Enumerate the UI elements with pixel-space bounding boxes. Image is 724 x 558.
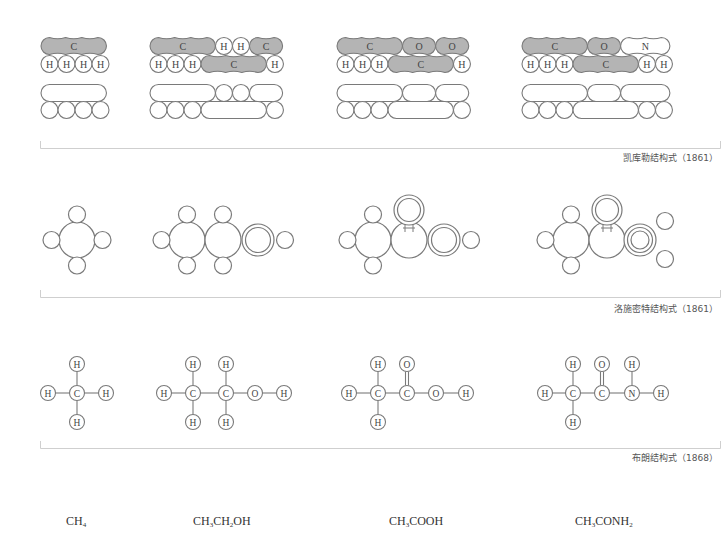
kekule-ethanol-outline <box>150 85 283 119</box>
hydrogen-atom <box>58 102 75 119</box>
carbon-atom <box>355 222 391 258</box>
atom-outline <box>337 85 402 102</box>
hydrogen-atom <box>43 232 60 249</box>
atom-label: C <box>179 41 186 52</box>
atom-outline <box>388 102 453 119</box>
atom-label: H <box>570 418 577 428</box>
atom-label: C <box>570 389 576 399</box>
hydrogen-atom <box>266 102 283 119</box>
hydrogen-atom <box>277 232 294 249</box>
atom-label: H <box>63 59 70 70</box>
hydrogen-atom <box>232 85 249 102</box>
kekule-methane-labeled: CHHHH <box>41 38 109 73</box>
atom-label: H <box>359 59 366 70</box>
carbon-atom <box>169 222 205 258</box>
hydrogen-atom <box>365 257 382 274</box>
atom-label: H <box>189 59 196 70</box>
loschmidt-ethanol <box>153 206 294 274</box>
atom-C: C <box>337 38 402 55</box>
caption-kekule: 凯库勒结构式（1861） <box>623 151 718 164</box>
atom-label: H <box>542 389 549 399</box>
brown-ethanol: HHHHHCCOH <box>157 357 292 430</box>
atom-label: H <box>660 59 667 70</box>
atom-label: C <box>230 59 237 70</box>
section-brackets <box>41 141 721 449</box>
structural-formulas-diagram: CHHHHCHHCHHHCHCOOHHHCHCONHHHCHH HHHCHHHH… <box>0 0 724 558</box>
carbon-atom <box>589 222 625 258</box>
atom-label: H <box>80 59 87 70</box>
nitrogen-atom-inner <box>631 231 649 249</box>
hydrogen-atom <box>92 102 109 119</box>
carbon-atom <box>205 222 241 258</box>
formula-acetic-acid: CH3COOH <box>389 514 443 529</box>
atom-label: H <box>223 360 230 370</box>
hydrogen-atom <box>69 257 86 274</box>
atom-C: C <box>388 56 453 73</box>
oxygen-atom-double-inner <box>596 199 619 222</box>
hydrogen-atom <box>75 102 92 119</box>
atom-label: H <box>271 59 278 70</box>
formula-text: OH <box>233 514 250 528</box>
hydrogen-atom <box>215 257 232 274</box>
atom-label: H <box>376 59 383 70</box>
hydrogen-atom <box>184 102 201 119</box>
loschmidt-section <box>43 195 674 274</box>
hydrogen-atom <box>522 102 539 119</box>
brown-methane: HHHCH <box>41 357 114 430</box>
hydrogen-atom <box>563 257 580 274</box>
atom-label: C <box>70 41 77 52</box>
loschmidt-methane <box>43 206 111 274</box>
atom-label: N <box>642 41 649 52</box>
atom-C: C <box>249 38 282 55</box>
hydrogen-atom <box>556 102 573 119</box>
hydrogen-atom <box>69 206 86 223</box>
kekule-methane-outline <box>41 85 109 119</box>
atom-outline <box>402 85 435 102</box>
atom-label: O <box>415 41 422 52</box>
atom-label: C <box>602 59 609 70</box>
atom-label: H <box>46 59 53 70</box>
formula-text: CH <box>575 514 592 528</box>
atom-outline <box>573 102 638 119</box>
atom-label: C <box>551 41 558 52</box>
atom-label: H <box>463 389 470 399</box>
atom-label: H <box>103 389 110 399</box>
hydrogen-atom <box>563 206 580 223</box>
hydrogen-atom <box>655 102 672 119</box>
hydrogen-atom <box>537 232 554 249</box>
hydrogen-atom <box>371 102 388 119</box>
atom-label: H <box>658 389 665 399</box>
atom-label: H <box>281 389 288 399</box>
hydrogen-atom <box>215 85 232 102</box>
atom-label: H <box>346 389 353 399</box>
atom-label: H <box>375 418 382 428</box>
atom-outline <box>522 85 587 102</box>
atom-C: C <box>201 56 266 73</box>
hydrogen-atom <box>354 102 371 119</box>
atom-label: H <box>342 59 349 70</box>
carbon-atom <box>59 222 95 258</box>
formula-text: CH <box>389 514 406 528</box>
hydrogen-atom <box>215 206 232 223</box>
atom-outline <box>436 85 469 102</box>
atom-label: O <box>600 41 607 52</box>
oxygen-atom-inner <box>246 228 271 253</box>
kekule-acetic-acid-outline <box>337 85 470 119</box>
atom-label: H <box>527 59 534 70</box>
atom-outline <box>201 102 266 119</box>
atom-C: C <box>150 38 215 55</box>
atom-outline <box>249 85 282 102</box>
formula-text: CONH <box>595 514 629 528</box>
formula-methane: CH4 <box>66 514 86 529</box>
atom-label: H <box>74 418 81 428</box>
atom-outline <box>621 85 670 102</box>
atom-label: O <box>449 41 456 52</box>
atom-label: H <box>74 360 81 370</box>
atom-label: H <box>155 59 162 70</box>
hydrogen-atom <box>41 102 58 119</box>
formula-acetamide: CH3CONH2 <box>575 514 633 529</box>
atom-C: C <box>41 38 106 55</box>
atom-label: H <box>172 59 179 70</box>
atom-label: H <box>161 389 168 399</box>
atom-label: O <box>404 360 411 370</box>
